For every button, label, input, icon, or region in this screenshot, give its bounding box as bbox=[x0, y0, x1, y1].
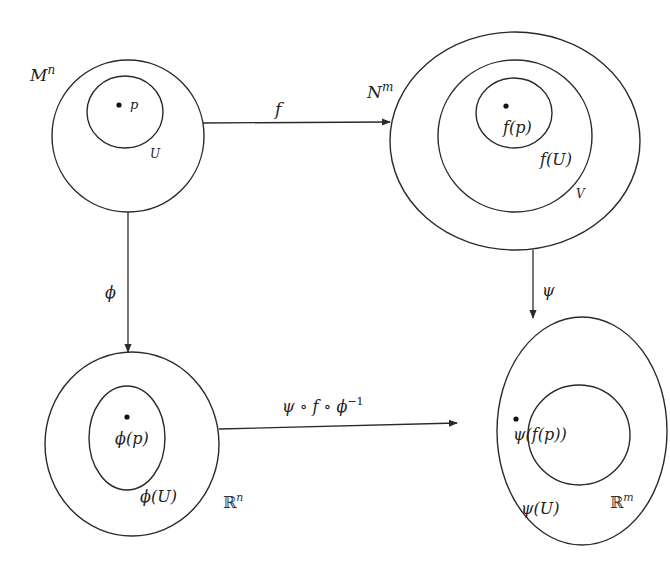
manifold-N: Nm f(p) f(U) V bbox=[366, 32, 640, 250]
set-U-label: U bbox=[150, 147, 161, 161]
point-fp bbox=[503, 103, 508, 108]
point-p bbox=[116, 102, 121, 107]
manifold-M-label: Mn bbox=[29, 63, 55, 85]
space-Rn: ϕ(p) ϕ(U) ℝn bbox=[45, 352, 243, 536]
set-fU-inner-outline bbox=[476, 78, 552, 148]
arrow-f: f bbox=[203, 99, 390, 123]
set-V-label: V bbox=[576, 187, 586, 201]
point-fp-label: f(p) bbox=[502, 118, 532, 137]
manifold-M: Mn p U bbox=[29, 60, 204, 212]
point-psifp-label: ψ(f(p)) bbox=[513, 425, 567, 444]
arrow-psi: ψ bbox=[533, 250, 555, 318]
arrow-transition-label: ψ ∘ f ∘ ϕ−1 bbox=[282, 395, 364, 416]
point-p-label: p bbox=[130, 97, 139, 112]
space-Rm-label: ℝm bbox=[610, 491, 634, 512]
point-psifp bbox=[513, 416, 518, 421]
arrow-f-label: f bbox=[273, 99, 284, 119]
manifold-N-label: Nm bbox=[366, 80, 393, 102]
arrow-phi-label: ϕ bbox=[105, 283, 116, 302]
set-U-outline bbox=[87, 76, 163, 148]
arrow-transition-line bbox=[219, 423, 457, 429]
set-psiU-label: ψ(U) bbox=[521, 499, 560, 518]
point-phip-label: ϕ(p) bbox=[115, 429, 149, 448]
manifold-diagram: Mn p U Nm f(p) f(U) V ϕ(p) ϕ(U) ℝn ψ(f(p… bbox=[0, 0, 670, 575]
point-phip bbox=[124, 414, 129, 419]
arrow-psi-label: ψ bbox=[542, 281, 555, 300]
arrow-transition-map: ψ ∘ f ∘ ϕ−1 bbox=[219, 395, 457, 429]
set-phiU-label: ϕ(U) bbox=[140, 487, 177, 506]
space-Rn-label: ℝn bbox=[223, 491, 243, 512]
manifold-N-outline bbox=[390, 32, 640, 250]
set-fU-label: f(U) bbox=[539, 150, 572, 169]
manifold-M-outline bbox=[52, 60, 204, 212]
arrow-f-line bbox=[203, 122, 390, 123]
space-Rm: ψ(f(p)) ψ(U) ℝm bbox=[497, 317, 667, 545]
arrow-phi: ϕ bbox=[105, 212, 128, 352]
